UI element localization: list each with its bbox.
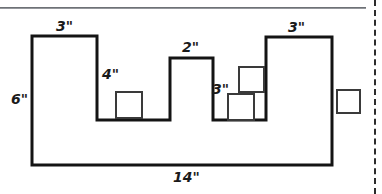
square-outside-right (337, 90, 360, 113)
square-notch-right-upper (239, 67, 264, 92)
right-dashed-boundary (374, 0, 376, 194)
dimension-label-notch-right-depth: 3" (212, 82, 229, 96)
dimension-label-tower-left-width: 3" (56, 19, 73, 33)
crenellated-polygon-outline (32, 36, 332, 165)
dimension-label-tower-middle-width: 2" (182, 40, 199, 54)
dimension-label-tower-right-width: 3" (288, 20, 305, 34)
dimension-label-bottom-width: 14" (173, 170, 200, 184)
square-notch-left (116, 92, 142, 118)
square-notch-right-lower (228, 94, 254, 120)
dimension-label-notch-left-depth: 4" (102, 67, 119, 81)
dimension-label-left-height: 6" (11, 92, 28, 106)
diagram-canvas: 6" 3" 4" 2" 3" 3" 14" (0, 0, 382, 194)
